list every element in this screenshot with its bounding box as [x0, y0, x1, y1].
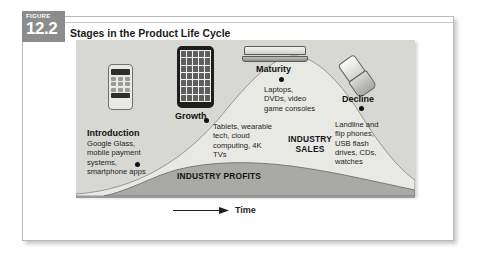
stage-label-introduction: Introduction [87, 128, 140, 138]
figure-number-badge: FIGURE 12.2 [22, 11, 65, 42]
stage-examples-introduction: Google Glass, mobile payment systems, sm… [87, 139, 159, 176]
flip-phone-image [344, 56, 370, 96]
x-axis-label-group: Time [173, 205, 256, 215]
plot-area: Introduction Google Glass, mobile paymen… [76, 40, 415, 196]
smartphone-image [108, 64, 133, 110]
stage-label-decline: Decline [342, 94, 374, 104]
x-axis-label: Time [235, 205, 256, 215]
product-life-cycle-chart: Sales and Profits [53, 40, 415, 208]
stage-examples-decline: Landline and flip phones, USB flash driv… [335, 120, 383, 166]
phone-screen-bottom [111, 93, 130, 98]
industry-profits-label: INDUSTRY PROFITS [154, 171, 284, 181]
x-axis-line [76, 196, 415, 198]
stage-label-growth: Growth [175, 111, 207, 121]
figure-number: 12.2 [26, 20, 65, 38]
marker-dot-maturity [279, 77, 284, 82]
tablet-app-grid [180, 50, 211, 102]
laptop-base [242, 56, 308, 62]
industry-sales-label: INDUSTRY SALES [279, 134, 341, 154]
phone-screen-top [111, 69, 130, 75]
marker-dot-decline [359, 106, 364, 111]
laptop-image [244, 46, 306, 62]
stage-examples-maturity: Laptops, DVDs, video game consoles [264, 85, 316, 113]
stage-label-maturity: Maturity [256, 64, 291, 74]
phone-keypad [111, 77, 130, 92]
laptop-lid [244, 46, 306, 55]
figure-title: Stages in the Product Life Cycle [70, 27, 230, 39]
time-arrow-icon [173, 206, 231, 215]
tablet-image [177, 46, 214, 108]
stage-examples-growth: Tablets, wearable tech, cloud computing,… [213, 122, 273, 159]
title-divider [65, 22, 454, 23]
